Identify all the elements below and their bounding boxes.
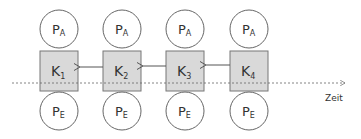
- k-boxes: [40, 51, 268, 91]
- labels: PA PA PA PA K1 K2 K3 K4 PE PE PE PE: [51, 22, 256, 120]
- bottom-circles: [40, 92, 268, 130]
- top-circles: [40, 10, 268, 48]
- time-axis-label: Zeit: [325, 93, 343, 103]
- process-diagram: Zeit PA PA PA PA K1 K2 K3 K4 PE PE PE PE: [0, 0, 361, 139]
